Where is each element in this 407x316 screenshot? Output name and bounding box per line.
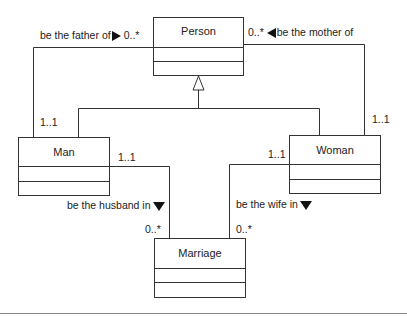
- mother-association-line[interactable]: [244, 45, 365, 136]
- father-mult-man: 1..1: [40, 116, 58, 128]
- triangle-right-icon: [112, 31, 121, 41]
- wife-mult-woman: 1..1: [268, 148, 286, 160]
- mother-label-text: be the mother of: [277, 26, 353, 38]
- man-class-name: Man: [18, 146, 110, 159]
- husband-mult-man: 1..1: [118, 151, 136, 163]
- marriage-class-name: Marriage: [154, 247, 246, 260]
- mother-role-label: 0..*be the mother of: [248, 26, 353, 38]
- triangle-down-icon: [153, 202, 165, 211]
- mother-mult-person: 0..*: [248, 26, 264, 38]
- husband-label-text: be the husband in: [67, 199, 151, 211]
- triangle-left-icon: [267, 28, 276, 38]
- person-class-name: Person: [153, 25, 244, 38]
- father-mult-person: 0..*: [124, 29, 140, 41]
- father-role-label: be the father of0..*: [40, 29, 139, 41]
- triangle-down-icon: [300, 201, 312, 210]
- mother-mult-woman: 1..1: [372, 113, 390, 125]
- wife-label-text: be the wife in: [236, 198, 298, 210]
- father-label-text: be the father of: [40, 29, 111, 41]
- wife-mult-marriage: 0..*: [236, 223, 252, 235]
- wife-role-label: be the wife in: [236, 198, 312, 210]
- woman-class-name: Woman: [289, 144, 381, 157]
- husband-mult-marriage: 0..*: [145, 223, 161, 235]
- generalization-triangle-icon: [193, 76, 204, 90]
- husband-role-label: be the husband in: [67, 199, 165, 211]
